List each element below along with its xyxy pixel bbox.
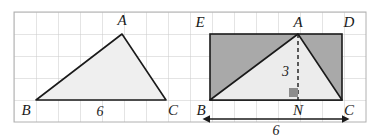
vertex-label-a-right: A bbox=[292, 14, 303, 30]
vertex-label-e: E bbox=[194, 14, 204, 30]
altitude-measure-label: 3 bbox=[281, 64, 289, 79]
base-measure-label-left: 6 bbox=[97, 104, 104, 119]
vertex-label-c-left: C bbox=[168, 102, 179, 118]
geometry-figure-canvas: A B C 6 3 E A D B N C 6 bbox=[0, 0, 367, 138]
vertex-label-b-left: B bbox=[21, 102, 30, 118]
vertex-label-n: N bbox=[292, 102, 304, 118]
vertex-label-c-right: C bbox=[344, 102, 355, 118]
vertex-label-a-left: A bbox=[116, 12, 127, 28]
vertex-label-d: D bbox=[343, 14, 355, 30]
vertex-label-b-right: B bbox=[196, 102, 205, 118]
geometry-figure: A B C 6 3 E A D B N C 6 bbox=[0, 0, 367, 138]
base-measure-label-right: 6 bbox=[273, 123, 280, 138]
right-angle-marker-icon bbox=[289, 88, 298, 97]
